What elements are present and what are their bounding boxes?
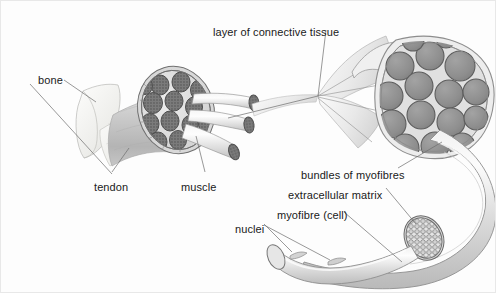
- leader-myofibre: [344, 212, 402, 262]
- bundle-cluster-magnified: [375, 28, 494, 162]
- label-myofibre-cell: myofibre (cell): [277, 209, 348, 221]
- nucleus-bulge-b: [290, 252, 307, 259]
- label-nuclei: nuclei: [235, 223, 264, 235]
- diagram-canvas: [0, 0, 496, 293]
- muscle-anatomy-figure: bone layer of connective tissue tendon m…: [0, 0, 496, 293]
- label-tendon: tendon: [94, 181, 128, 193]
- protruding-bundles: [182, 93, 260, 161]
- leader-matrix: [386, 188, 416, 224]
- label-bundles-of-myofibres: bundles of myofibres: [301, 169, 405, 181]
- label-layer-of-connective-tissue: layer of connective tissue: [213, 26, 339, 38]
- nucleus-bulge-a: [328, 258, 346, 265]
- label-bone: bone: [38, 74, 63, 86]
- label-extracellular-matrix: extracellular matrix: [288, 189, 382, 201]
- label-muscle: muscle: [181, 181, 216, 193]
